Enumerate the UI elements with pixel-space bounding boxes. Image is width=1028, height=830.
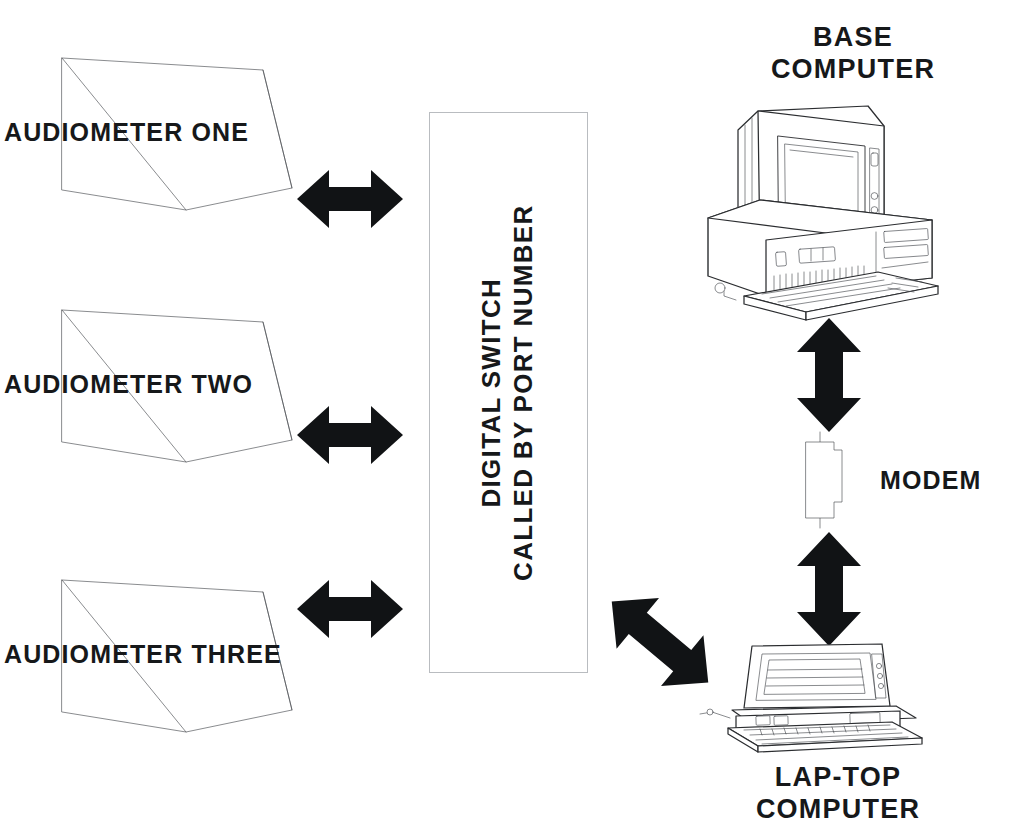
laptop-group[interactable] (700, 636, 950, 761)
audiometer-three-label: AUDIOMETER THREE (4, 640, 282, 670)
base-computer-title-line1: BASE (733, 22, 973, 54)
diagram-canvas: AUDIOMETER ONE AUDIOMETER TWO AUDIOMETER… (0, 0, 1028, 830)
laptop-computer-icon (700, 636, 950, 761)
digital-switch-box[interactable]: DIGITAL SWITCH CALLED BY PORT NUMBER (429, 112, 588, 673)
connection-base-to-modem[interactable] (793, 316, 865, 434)
modem-label: MODEM (880, 466, 981, 496)
connection-audiometer-three-to-switch[interactable] (295, 570, 405, 648)
audiometer-two-label: AUDIOMETER TWO (4, 370, 253, 400)
connection-audiometer-one-to-switch[interactable] (295, 160, 405, 238)
base-computer-title-line2: COMPUTER (733, 54, 973, 86)
laptop-title: LAP-TOP COMPUTER (718, 762, 958, 826)
switch-label-line2: CALLED BY PORT NUMBER (509, 204, 539, 580)
audiometer-three-group[interactable]: AUDIOMETER THREE (40, 562, 330, 767)
laptop-title-line1: LAP-TOP (718, 762, 958, 794)
switch-label: DIGITAL SWITCH CALLED BY PORT NUMBER (477, 204, 540, 580)
switch-label-wrap: DIGITAL SWITCH CALLED BY PORT NUMBER (430, 113, 587, 672)
modem-group[interactable] (798, 432, 860, 528)
double-arrow-horizontal-icon (295, 570, 405, 648)
switch-label-line1: DIGITAL SWITCH (477, 278, 507, 508)
connection-audiometer-two-to-switch[interactable] (295, 396, 405, 474)
double-arrow-vertical-icon (793, 530, 865, 648)
double-arrow-horizontal-icon (295, 396, 405, 474)
audiometer-one-group[interactable]: AUDIOMETER ONE (40, 40, 330, 245)
base-computer-title: BASE COMPUTER (733, 22, 973, 86)
connection-modem-to-laptop[interactable] (793, 530, 865, 648)
base-computer-group[interactable] (700, 100, 940, 315)
desktop-computer-icon (700, 100, 940, 315)
audiometer-one-label: AUDIOMETER ONE (4, 118, 249, 148)
modem-icon (798, 432, 860, 528)
audiometer-two-group[interactable]: AUDIOMETER TWO (40, 292, 330, 497)
double-arrow-horizontal-icon (295, 160, 405, 238)
double-arrow-vertical-icon (793, 316, 865, 434)
laptop-title-line2: COMPUTER (718, 794, 958, 826)
